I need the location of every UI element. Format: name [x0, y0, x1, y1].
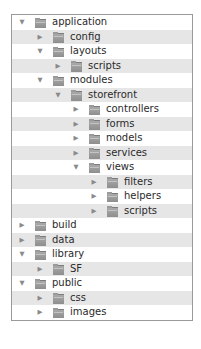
tree-item-forms[interactable]: ▶forms — [12, 117, 192, 132]
folder-icon — [53, 309, 64, 319]
tree-item-data[interactable]: ▶data — [12, 233, 192, 248]
folder-icon — [107, 207, 118, 217]
tree-item-label: models — [106, 131, 142, 146]
tree-item-label: scripts — [124, 204, 157, 219]
tree-item-application[interactable]: ▼application — [12, 15, 192, 30]
disclosure-collapsed-icon[interactable]: ▶ — [90, 189, 98, 204]
tree-item-sf[interactable]: ▶SF — [12, 262, 192, 277]
tree-item-public[interactable]: ▼public — [12, 276, 192, 291]
disclosure-collapsed-icon[interactable]: ▶ — [90, 175, 98, 190]
tree-item-models[interactable]: ▶models — [12, 131, 192, 146]
disclosure-collapsed-icon[interactable]: ▶ — [18, 320, 26, 322]
folder-icon — [35, 236, 46, 246]
tree-item-layouts[interactable]: ▼layouts — [12, 44, 192, 59]
tree-item-build[interactable]: ▶build — [12, 218, 192, 233]
disclosure-expanded-icon[interactable]: ▼ — [36, 44, 44, 59]
disclosure-expanded-icon[interactable]: ▼ — [72, 160, 80, 175]
tree-item-tests[interactable]: ▶tests — [12, 320, 192, 322]
folder-icon — [35, 19, 46, 29]
tree-item-label: services — [106, 146, 147, 161]
tree-item-label: controllers — [106, 102, 159, 117]
disclosure-expanded-icon[interactable]: ▼ — [18, 276, 26, 291]
tree-item-images[interactable]: ▶images — [12, 305, 192, 320]
tree-item-label: build — [52, 218, 77, 233]
tree-item-css[interactable]: ▶css — [12, 291, 192, 306]
tree-item-scripts[interactable]: ▶scripts — [12, 204, 192, 219]
folder-icon — [35, 222, 46, 232]
folder-icon — [53, 294, 64, 304]
tree-item-label: storefront — [88, 88, 137, 103]
disclosure-collapsed-icon[interactable]: ▶ — [36, 305, 44, 320]
tree-item-label: filters — [124, 175, 152, 190]
tree-item-label: data — [52, 233, 75, 248]
folder-icon — [107, 178, 118, 188]
folder-icon — [35, 251, 46, 261]
tree-item-helpers[interactable]: ▶helpers — [12, 189, 192, 204]
folder-icon — [35, 280, 46, 290]
tree-item-label: css — [70, 291, 86, 306]
folder-icon — [53, 265, 64, 275]
disclosure-collapsed-icon[interactable]: ▶ — [18, 233, 26, 248]
disclosure-collapsed-icon[interactable]: ▶ — [36, 30, 44, 45]
tree-item-config[interactable]: ▶config — [12, 30, 192, 45]
tree-item-label: application — [52, 15, 107, 30]
disclosure-collapsed-icon[interactable]: ▶ — [90, 204, 98, 219]
tree-item-scripts[interactable]: ▶scripts — [12, 59, 192, 74]
folder-icon — [71, 62, 82, 72]
disclosure-expanded-icon[interactable]: ▼ — [18, 247, 26, 262]
disclosure-expanded-icon[interactable]: ▼ — [54, 88, 62, 103]
folder-icon — [53, 33, 64, 43]
folder-icon — [53, 48, 64, 58]
tree-item-label: modules — [70, 73, 113, 88]
disclosure-expanded-icon[interactable]: ▼ — [36, 73, 44, 88]
disclosure-collapsed-icon[interactable]: ▶ — [72, 131, 80, 146]
tree-item-storefront[interactable]: ▼storefront — [12, 88, 192, 103]
folder-icon — [107, 193, 118, 203]
tree-item-label: SF — [70, 262, 82, 277]
tree-item-label: layouts — [70, 44, 106, 59]
folder-icon — [71, 91, 82, 101]
tree-item-label: public — [52, 276, 82, 291]
file-tree-panel: ▼application▶config▼layouts▶scripts▼modu… — [11, 14, 193, 321]
tree-item-label: tests — [52, 320, 76, 322]
tree-item-views[interactable]: ▼views — [12, 160, 192, 175]
tree-item-label: views — [106, 160, 134, 175]
folder-icon — [89, 106, 100, 116]
tree-item-modules[interactable]: ▼modules — [12, 73, 192, 88]
folder-icon — [89, 149, 100, 159]
folder-icon — [89, 164, 100, 174]
disclosure-collapsed-icon[interactable]: ▶ — [54, 59, 62, 74]
tree-item-label: helpers — [124, 189, 161, 204]
tree-item-label: scripts — [88, 59, 121, 74]
disclosure-collapsed-icon[interactable]: ▶ — [72, 117, 80, 132]
disclosure-collapsed-icon[interactable]: ▶ — [18, 218, 26, 233]
tree-item-filters[interactable]: ▶filters — [12, 175, 192, 190]
tree-item-services[interactable]: ▶services — [12, 146, 192, 161]
disclosure-expanded-icon[interactable]: ▼ — [18, 15, 26, 30]
folder-icon — [89, 135, 100, 145]
tree-item-library[interactable]: ▼library — [12, 247, 192, 262]
disclosure-collapsed-icon[interactable]: ▶ — [72, 146, 80, 161]
disclosure-collapsed-icon[interactable]: ▶ — [36, 262, 44, 277]
tree-item-controllers[interactable]: ▶controllers — [12, 102, 192, 117]
disclosure-collapsed-icon[interactable]: ▶ — [36, 291, 44, 306]
disclosure-collapsed-icon[interactable]: ▶ — [72, 102, 80, 117]
tree-item-label: library — [52, 247, 84, 262]
tree-item-label: config — [70, 30, 101, 45]
tree-item-label: images — [70, 305, 106, 320]
tree-item-label: forms — [106, 117, 135, 132]
folder-icon — [89, 120, 100, 130]
folder-icon — [53, 77, 64, 87]
